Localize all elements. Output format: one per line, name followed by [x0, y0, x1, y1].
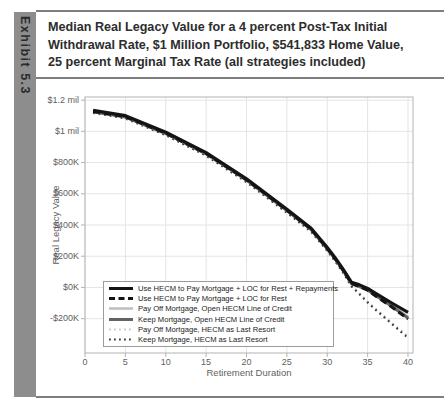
legend-item-label: Keep Mortgage, HECM as Last Resort: [138, 335, 268, 344]
legend-item-label: Keep Mortgage, Open HECM Line of Credit: [138, 315, 284, 324]
legend-line-sample-icon: [108, 336, 134, 343]
x-tick-label: 35: [356, 357, 380, 367]
legend-line-sample-icon: [108, 295, 134, 302]
exhibit-figure: Exhibit 5.3 Median Real Legacy Value for…: [0, 0, 447, 413]
legend-item-label: Pay Off Mortgage, HECM as Last Resort: [138, 325, 275, 334]
legend-item-label: Use HECM to Pay Mortgage + LOC for Rest: [138, 294, 287, 303]
x-tick-label: 30: [315, 357, 339, 367]
x-tick-label: 40: [396, 357, 420, 367]
y-tick-label: $0K: [26, 282, 79, 292]
legend-item: Use HECM to Pay Mortgage + LOC for Rest: [108, 294, 333, 304]
x-tick-label: 15: [194, 357, 218, 367]
y-tick-label: $1.2 mil: [26, 95, 79, 105]
x-tick-label: 5: [113, 357, 137, 367]
x-tick-label: 0: [73, 357, 97, 367]
y-tick-label: $200K: [26, 251, 79, 261]
legend-line-sample-icon: [108, 305, 134, 312]
x-axis-title: Retirement Duration: [206, 367, 291, 378]
figure-bottom-rule: [36, 396, 444, 398]
y-tick-label: $600K: [26, 188, 79, 198]
legend-line-sample-icon: [108, 316, 134, 323]
x-tick-label: 25: [275, 357, 299, 367]
legend-item: Keep Mortgage, HECM as Last Resort: [108, 335, 333, 345]
x-tick-label: 10: [154, 357, 178, 367]
y-tick-label: -$200K: [26, 313, 79, 323]
legend-item-label: Use HECM to Pay Mortgage + LOC for Rest …: [138, 284, 338, 293]
legend-line-sample-icon: [108, 326, 134, 333]
x-tick-label: 20: [235, 357, 259, 367]
legend-line-sample-icon: [108, 285, 134, 292]
chart-plot-area: [0, 0, 447, 413]
legend-item: Keep Mortgage, Open HECM Line of Credit: [108, 314, 333, 324]
legend-item: Use HECM to Pay Mortgage + LOC for Rest …: [108, 283, 333, 293]
y-tick-label: $1 mil: [26, 126, 79, 136]
y-tick-label: $400K: [26, 220, 79, 230]
legend-item-label: Pay Off Mortgage, Open HECM Line of Cred…: [138, 304, 292, 313]
legend-item: Pay Off Mortgage, HECM as Last Resort: [108, 324, 333, 334]
y-tick-label: $800K: [26, 157, 79, 167]
chart-legend: Use HECM to Pay Mortgage + LOC for Rest …: [103, 281, 334, 347]
legend-item: Pay Off Mortgage, Open HECM Line of Cred…: [108, 304, 333, 314]
